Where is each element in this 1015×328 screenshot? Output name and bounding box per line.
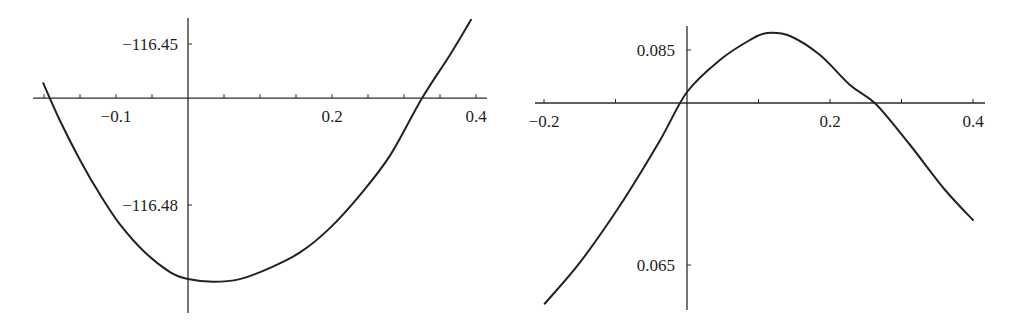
y-tick-label: 0.065: [637, 256, 675, 275]
y-tick-label: 0.085: [637, 41, 675, 60]
y-tick-label: −116.48: [122, 196, 178, 215]
x-tick-label: −0.2: [529, 112, 560, 131]
right-plot: −0.20.20.40.0850.065: [529, 26, 985, 310]
series-curve: [545, 33, 973, 304]
x-tick-label: 0.2: [819, 112, 840, 131]
x-tick-label: −0.1: [101, 107, 132, 126]
left-plot: −0.10.20.4−116.45−116.48: [33, 18, 487, 313]
x-tick-label: 0.4: [962, 112, 984, 131]
y-tick-label: −116.45: [122, 35, 178, 54]
series-curve: [43, 20, 471, 282]
figure: −0.10.20.4−116.45−116.48 −0.20.20.40.085…: [0, 0, 1015, 328]
x-tick-label: 0.2: [321, 107, 342, 126]
x-tick-label: 0.4: [465, 107, 487, 126]
